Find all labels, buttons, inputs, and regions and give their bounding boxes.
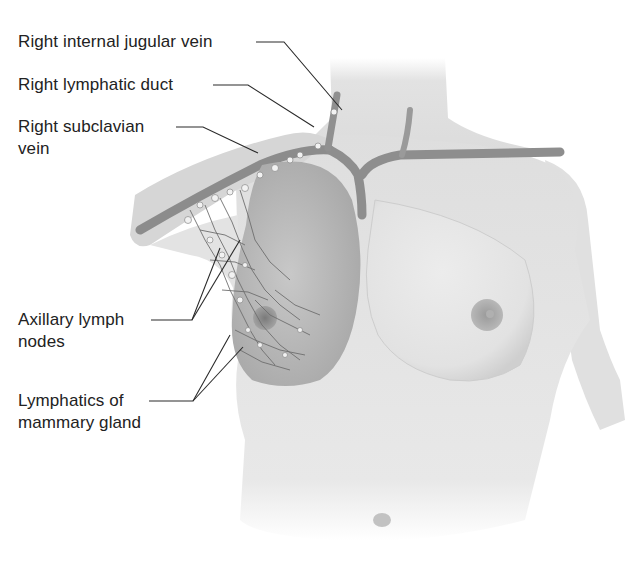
label-lymphatics-of-mammary-gland: Lymphatics of mammary gland (18, 390, 141, 434)
label-axillary-lymph-nodes: Axillary lymph nodes (18, 309, 124, 353)
label-right-subclavian-vein: Right subclavian vein (18, 116, 144, 160)
leader-lymph-duct (213, 85, 314, 127)
label-right-lymphatic-duct: Right lymphatic duct (18, 74, 173, 96)
label-right-internal-jugular-vein: Right internal jugular vein (18, 31, 213, 53)
leader-mammary (149, 335, 230, 401)
right-breast (232, 162, 361, 386)
leader-jugular (256, 42, 342, 110)
navel (373, 513, 391, 527)
